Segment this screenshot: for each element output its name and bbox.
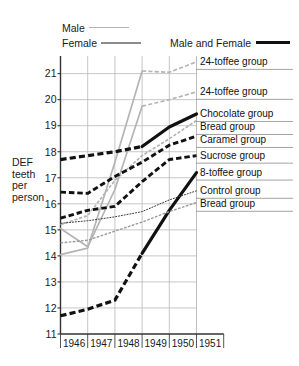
series-right-label: Bread group <box>200 121 255 132</box>
series-line-dashed <box>61 253 143 315</box>
y-tick-label: 12 <box>45 302 57 314</box>
series-line <box>61 136 197 193</box>
series-line-dashed <box>61 147 143 160</box>
series-right-label: Sucrose group <box>200 150 265 161</box>
x-tick-label: 1946 <box>63 338 86 349</box>
y-tick-label: 20 <box>45 93 57 105</box>
series-right-label: 8-toffee group <box>200 167 263 178</box>
series-9 <box>61 203 197 243</box>
series-right-label: Chocolate group <box>200 108 274 119</box>
y-tick-label: 18 <box>45 146 57 158</box>
y-tick-label: 17 <box>45 172 57 184</box>
series-line-solid <box>61 71 143 255</box>
y-tick-label: 16 <box>45 198 57 210</box>
x-tick-label: 1949 <box>145 338 168 349</box>
series-right-label: 24-toffee group <box>200 86 268 97</box>
series-5 <box>61 136 197 193</box>
x-tick-label: 1950 <box>172 338 195 349</box>
y-tick-label: 15 <box>45 224 57 236</box>
def-teeth-line-chart: Male Female Male and Female DEF teeth pe… <box>0 0 299 366</box>
y-tick-label: 11 <box>46 328 57 340</box>
y-tick-label: 13 <box>45 276 57 288</box>
y-tick-labels: 1112131415161718192021 <box>45 67 57 339</box>
plot-area: 1112131415161718192021 19461947194819491… <box>0 0 299 366</box>
right-series-labels: 24-toffee group24-toffee groupChocolate … <box>196 56 293 211</box>
x-tick-label: 1948 <box>117 338 140 349</box>
series-3 <box>61 114 197 160</box>
series-right-label: 24-toffee group <box>200 56 268 67</box>
x-tick-label: 1951 <box>199 338 222 349</box>
chart-svg: 1112131415161718192021 19461947194819491… <box>0 0 299 366</box>
series-right-label: Caramel group <box>200 134 267 145</box>
y-tick-label: 14 <box>45 250 57 262</box>
x-tick-label: 1947 <box>90 338 113 349</box>
y-tick-label: 19 <box>45 119 57 131</box>
series-right-label: Bread group <box>200 198 255 209</box>
series-right-label: Control group <box>200 185 261 196</box>
y-tick-label: 21 <box>45 67 57 79</box>
series-line <box>61 203 197 243</box>
